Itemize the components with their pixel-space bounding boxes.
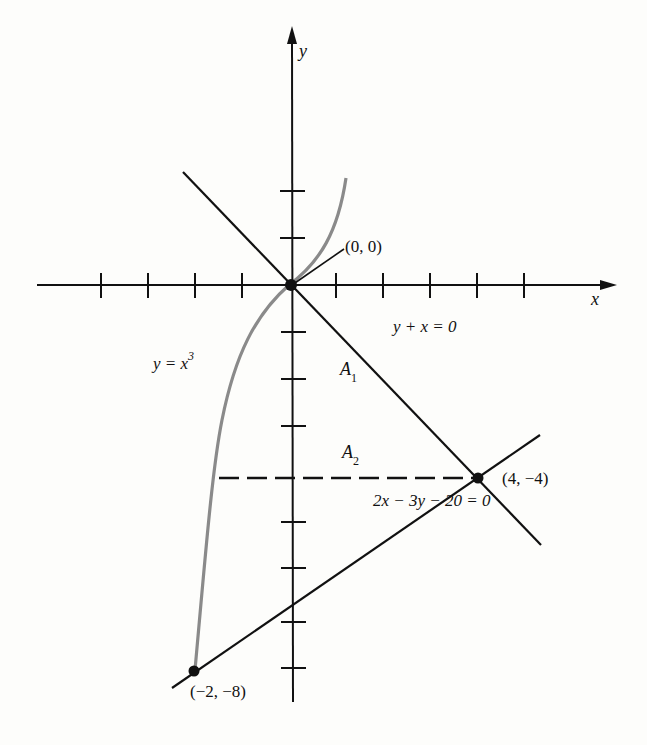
point-origin-dot bbox=[285, 279, 297, 291]
line-y-plus-x-label: y + x = 0 bbox=[393, 318, 457, 335]
cubic-label-exponent: 3 bbox=[188, 349, 194, 363]
x-axis-arrow-icon bbox=[600, 280, 617, 290]
point-minus2-minus8-label: (−2, −8) bbox=[190, 683, 246, 700]
region-a2-label: A2 bbox=[342, 443, 359, 465]
y-axis-arrow-icon bbox=[287, 26, 297, 44]
region-a1-letter: A bbox=[340, 359, 351, 379]
region-a2-letter: A bbox=[342, 442, 353, 462]
region-a2-subscript: 2 bbox=[353, 454, 359, 468]
region-a1-label: A1 bbox=[340, 360, 357, 382]
line-2x-3y-20 bbox=[172, 435, 540, 688]
diagram-canvas bbox=[0, 0, 647, 745]
cubic-label-lhs: y = x bbox=[153, 354, 188, 373]
point-minus2-minus8-dot bbox=[189, 666, 200, 677]
line-2x-3y-20-label: 2x − 3y − 20 = 0 bbox=[373, 492, 491, 509]
curve-y-equals-x-cubed bbox=[195, 178, 346, 670]
cubic-curve-label: y = x3 bbox=[153, 352, 194, 372]
region-a1-subscript: 1 bbox=[351, 371, 357, 385]
x-axis-label: x bbox=[591, 290, 599, 308]
x-axis bbox=[37, 273, 608, 298]
line-y-plus-x bbox=[183, 172, 541, 545]
y-axis bbox=[280, 36, 306, 702]
point-4-minus4-dot bbox=[473, 473, 484, 484]
origin-point-label: (0, 0) bbox=[345, 238, 382, 255]
y-axis-label: y bbox=[299, 42, 307, 60]
point-4-minus4-label: (4, −4) bbox=[502, 470, 548, 487]
